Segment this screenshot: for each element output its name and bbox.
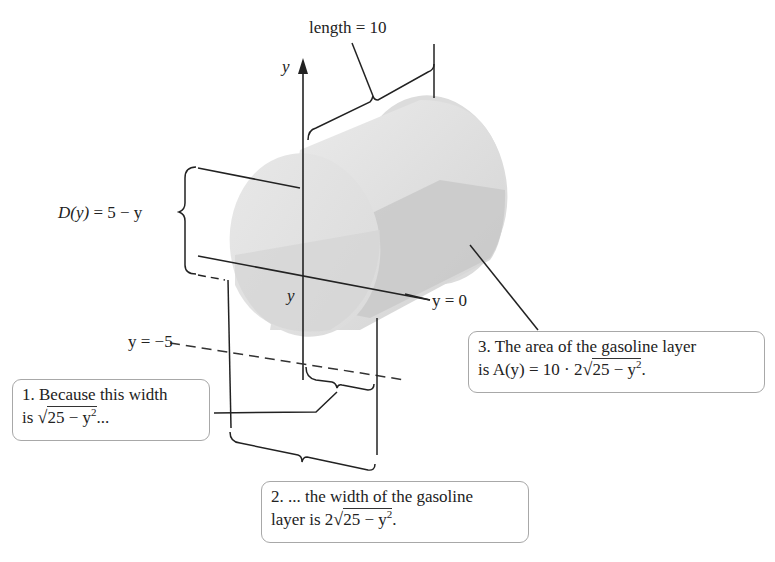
- callout-1-line2: is √25 − y2...: [22, 406, 200, 429]
- callout-2-line1: 2. ... the width of the gasoline: [271, 486, 519, 508]
- area-leader-line: [470, 245, 538, 330]
- callout-3: 3. The area of the gasoline layer is A(y…: [468, 331, 765, 393]
- depth-label: D(y) = 5 − y: [58, 203, 142, 223]
- full-width-bracket: [230, 432, 375, 470]
- callout-1: 1. Because this width is √25 − y2...: [12, 379, 210, 441]
- depth-label-prefix: D(y): [58, 203, 89, 222]
- y-minus-five-label: y = −5: [128, 332, 173, 352]
- callout-1-line1: 1. Because this width: [22, 384, 200, 406]
- y-axis-label: y: [282, 57, 290, 77]
- cylinder-diagram: [0, 0, 775, 562]
- callout-2-line2: layer is 2√25 − y2.: [271, 508, 519, 531]
- y-minus-5-line: [170, 343, 405, 380]
- depth-label-rest: = 5 − y: [89, 203, 142, 222]
- length-label: length = 10: [309, 18, 387, 38]
- callout-2: 2. ... the width of the gasoline layer i…: [261, 481, 529, 543]
- half-width-bracket: [214, 367, 374, 413]
- callout-3-line1: 3. The area of the gasoline layer: [478, 336, 755, 358]
- y-zero-label: y = 0: [432, 291, 467, 311]
- callout-3-line2: is A(y) = 10 · 2√25 − y2.: [478, 358, 755, 381]
- cylinder-body: [218, 85, 520, 346]
- inner-y-label: y: [287, 286, 295, 306]
